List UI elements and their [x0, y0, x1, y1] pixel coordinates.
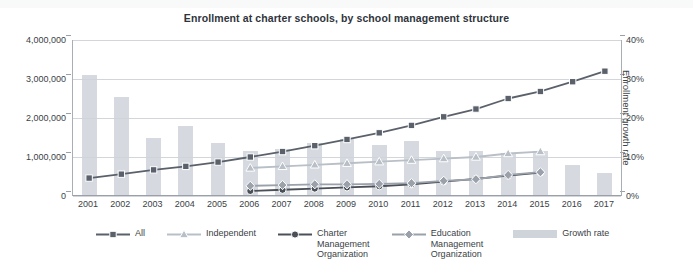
data-point-marker [150, 167, 156, 173]
data-point-marker [441, 114, 447, 120]
data-point-marker [602, 68, 608, 74]
x-axis-labels: 2001200220032004200520062007200820092010… [72, 199, 620, 213]
tick-mark [66, 35, 71, 36]
data-point-marker [473, 106, 479, 112]
legend-triangle-icon [167, 229, 201, 240]
tick-mark [620, 35, 625, 36]
y-axis-right-ticks: 0%10%20%30%40% [626, 40, 666, 196]
x-tick-label: 2011 [401, 199, 420, 209]
legend-label: Charter Management Organization [317, 228, 370, 260]
gridline [73, 196, 621, 197]
legend-diamond-icon [392, 229, 426, 240]
x-tick-label: 2013 [465, 199, 485, 209]
data-point-marker [569, 79, 575, 85]
x-tick-label: 2008 [304, 199, 324, 209]
x-tick-label: 2002 [110, 199, 130, 209]
x-tick-label: 2007 [272, 199, 292, 209]
legend-item[interactable]: All [96, 228, 145, 240]
x-tick-label: 2012 [433, 199, 453, 209]
chart-legend: AllIndependentCharter Management Organiz… [78, 228, 678, 272]
x-tick-label: 2009 [336, 199, 356, 209]
legend-item[interactable]: Education Management Organization [392, 228, 484, 260]
data-point-marker [247, 154, 253, 160]
legend-item[interactable]: Growth rate [513, 228, 609, 239]
x-tick-label: 2004 [175, 199, 195, 209]
x-tick-label: 2016 [562, 199, 582, 209]
y-tick-right: 0% [626, 191, 639, 201]
y-axis-right-label: Enrollment growth rate [621, 70, 632, 166]
y-tick-left: 3,000,000 [26, 74, 66, 84]
series-line [250, 172, 540, 186]
x-tick-label: 2010 [368, 199, 388, 209]
data-point-marker [86, 175, 92, 181]
legend-label: All [135, 228, 145, 239]
data-point-marker [110, 231, 116, 237]
legend-square-icon [96, 229, 130, 240]
data-point-marker [291, 231, 298, 238]
data-point-marker [404, 230, 413, 239]
tick-mark [66, 113, 71, 114]
data-point-marker [215, 159, 221, 165]
legend-item[interactable]: Independent [167, 228, 256, 240]
x-tick-label: 2006 [239, 199, 259, 209]
y-tick-right: 40% [626, 35, 644, 45]
data-point-marker [472, 175, 481, 184]
series-line [250, 173, 540, 191]
data-point-marker [376, 130, 382, 136]
y-tick-left: 1,000,000 [26, 152, 66, 162]
data-point-marker [505, 95, 511, 101]
page-text-strip [0, 0, 693, 8]
x-tick-label: 2001 [78, 199, 98, 209]
data-point-marker [279, 148, 285, 154]
y-axis-left-ticks: 01,000,0002,000,0003,000,0004,000,000 [0, 40, 66, 196]
data-point-marker [344, 136, 350, 142]
tick-mark [66, 152, 71, 153]
legend-label: Education Management Organization [431, 228, 484, 260]
x-tick-label: 2017 [594, 199, 614, 209]
series-layer [73, 40, 621, 196]
chart-title: Enrollment at charter schools, by school… [0, 12, 693, 24]
tick-mark [66, 74, 71, 75]
legend-label: Growth rate [562, 228, 609, 239]
series-line [250, 152, 540, 168]
data-point-marker [183, 163, 189, 169]
legend-circle-icon [278, 229, 312, 240]
tick-mark [66, 191, 71, 192]
legend-bar-swatch-icon [513, 230, 557, 238]
legend-label: Independent [206, 228, 256, 239]
legend-item[interactable]: Charter Management Organization [278, 228, 370, 260]
x-tick-label: 2014 [497, 199, 517, 209]
x-tick-label: 2015 [529, 199, 549, 209]
data-point-marker [536, 168, 545, 177]
chart-container: Enrollment at charter schools, by school… [0, 0, 693, 273]
y-tick-left: 2,000,000 [26, 113, 66, 123]
x-tick-label: 2003 [143, 199, 163, 209]
data-point-marker [408, 122, 414, 128]
x-axis-line [73, 195, 621, 196]
y-tick-left: 0 [61, 191, 66, 201]
data-point-marker [537, 88, 543, 94]
data-point-marker [118, 171, 124, 177]
x-tick-label: 2005 [207, 199, 227, 209]
data-point-marker [312, 142, 318, 148]
plot-area [72, 40, 622, 196]
y-tick-left: 4,000,000 [26, 35, 66, 45]
